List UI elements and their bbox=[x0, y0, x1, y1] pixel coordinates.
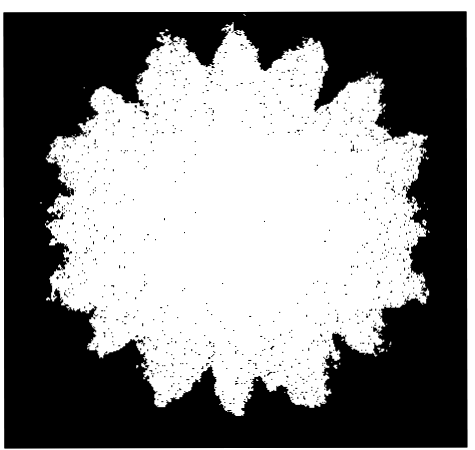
fractal-image bbox=[4, 12, 468, 449]
image-canvas-area: Fractal aggregate on black background bbox=[0, 0, 475, 450]
image-caption: Fractal aggregate on black background bbox=[0, 0, 1, 1]
black-frame bbox=[4, 12, 468, 449]
